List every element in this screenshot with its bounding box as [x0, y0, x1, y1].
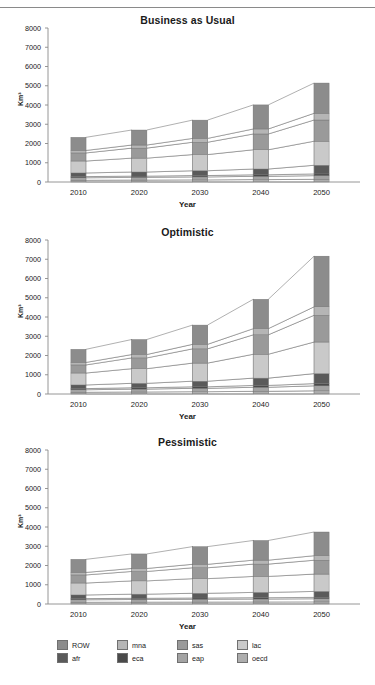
bar-segment-eca	[193, 387, 208, 389]
y-axis-tick-label: 2000	[11, 561, 41, 570]
bar-segment-ROW	[193, 325, 208, 344]
bar-segment-lac	[314, 141, 329, 165]
bar-segment-afr	[253, 378, 268, 385]
y-axis-tick-label: 7000	[11, 43, 41, 52]
bar-segment-mna	[132, 145, 147, 148]
legend-label: eap	[192, 654, 204, 663]
bar-segment-afr	[132, 383, 147, 387]
x-axis-tick-label: 2010	[58, 400, 98, 409]
y-axis-tick-label: 2000	[11, 351, 41, 360]
bar-segment-afr	[253, 169, 268, 175]
bar-segment-sas	[253, 335, 268, 354]
legend-label: ROW	[72, 641, 90, 650]
y-axis-tick-label: 4000	[11, 313, 41, 322]
y-axis-tick-label: 7000	[11, 465, 41, 474]
y-axis-title: Km³	[17, 304, 24, 318]
legend-swatch-icon	[57, 640, 68, 650]
bar-segment-ROW	[253, 540, 268, 560]
bar-segment-lac	[132, 581, 147, 594]
area-band-ROW	[268, 532, 314, 560]
legend-label: sas	[192, 641, 203, 650]
bar-segment-eap	[253, 387, 268, 391]
x-axis-tick-label: 2050	[302, 188, 342, 197]
chart-panel-pessimistic: Pessimistic 0100020003000400050006000700…	[0, 432, 375, 637]
bar-segment-sas	[132, 358, 147, 369]
bar-segment-eap	[314, 599, 329, 602]
bar-segment-afr	[193, 593, 208, 598]
legend-item-lac: lac	[237, 640, 297, 650]
bar-segment-eap	[253, 176, 268, 179]
legend-swatch-icon	[57, 653, 68, 663]
bar-segment-lac	[132, 158, 147, 172]
page-top-rule	[0, 7, 375, 8]
bar-segment-ROW	[132, 340, 147, 355]
plot-area: 0100020003000400050006000700080002010202…	[0, 432, 375, 637]
bar-segment-afr	[193, 381, 208, 387]
y-axis-tick-label: 6000	[11, 484, 41, 493]
x-axis-tick-label: 2040	[241, 610, 281, 619]
legend-item-eca: eca	[117, 653, 177, 663]
y-axis-tick-label: 3000	[11, 332, 41, 341]
bar-segment-afr	[253, 592, 268, 597]
bar-segment-mna	[253, 129, 268, 134]
bar-segment-eap	[71, 390, 86, 393]
bar-segment-lac	[314, 342, 329, 374]
bar-segment-eap	[253, 599, 268, 602]
chart-svg	[0, 432, 375, 637]
bar-segment-ROW	[71, 559, 86, 572]
bar-segment-ROW	[71, 137, 86, 150]
bar-segment-mna	[132, 568, 147, 571]
bar-segment-afr	[314, 591, 329, 597]
plot-area: 0100020003000400050006000700080002010202…	[0, 222, 375, 427]
bar-segment-mna	[314, 307, 329, 315]
area-band-ROW	[147, 547, 193, 569]
x-axis-tick-label: 2030	[180, 400, 220, 409]
x-axis-tick-label: 2020	[119, 188, 159, 197]
bar-segment-sas	[71, 153, 86, 161]
bar-segment-mna	[71, 572, 86, 575]
legend-swatch-icon	[117, 653, 128, 663]
area-band-lac	[208, 576, 254, 593]
bar-segment-eca	[253, 175, 268, 177]
y-axis-tick-label: 1000	[11, 580, 41, 589]
x-axis-tick-label: 2010	[58, 188, 98, 197]
plot-area: 0100020003000400050006000700080002010202…	[0, 10, 375, 215]
bar-segment-lac	[193, 579, 208, 594]
y-axis-tick-label: 6000	[11, 274, 41, 283]
bar-segment-lac	[253, 576, 268, 592]
bar-segment-ROW	[314, 83, 329, 113]
y-axis-tick-label: 1000	[11, 370, 41, 379]
bar-segment-ROW	[314, 532, 329, 556]
bar-segment-mna	[71, 362, 86, 365]
legend-label: eca	[132, 654, 144, 663]
bar-segment-lac	[71, 583, 86, 595]
bar-segment-sas	[314, 120, 329, 141]
legend-label: lac	[252, 641, 261, 650]
bar-segment-lac	[71, 373, 86, 385]
legend-item-oecd: oecd	[237, 653, 297, 663]
bar-segment-oecd	[314, 391, 329, 394]
legend-item-eap: eap	[177, 653, 237, 663]
y-axis-tick-label: 0	[11, 600, 41, 609]
bar-segment-eap	[71, 600, 86, 603]
y-axis-tick-label: 6000	[11, 62, 41, 71]
bar-segment-ROW	[253, 105, 268, 129]
bar-segment-eca	[132, 388, 147, 389]
legend-swatch-icon	[177, 653, 188, 663]
x-axis-tick-label: 2020	[119, 400, 159, 409]
legend-swatch-icon	[237, 640, 248, 650]
area-band-lac	[147, 579, 193, 595]
bar-segment-sas	[132, 571, 147, 580]
y-axis-tick-label: 2000	[11, 139, 41, 148]
bar-segment-ROW	[193, 547, 208, 565]
bar-segment-ROW	[71, 349, 86, 362]
area-band-ROW	[208, 540, 254, 564]
bar-segment-lac	[71, 161, 86, 173]
y-axis-tick-label: 8000	[11, 446, 41, 455]
y-axis-tick-label: 3000	[11, 542, 41, 551]
bar-segment-eap	[314, 386, 329, 391]
bar-segment-lac	[132, 369, 147, 384]
bar-segment-lac	[314, 574, 329, 591]
bar-segment-lac	[193, 155, 208, 171]
figure-page: Business as Usual 0100020003000400050006…	[0, 0, 375, 685]
